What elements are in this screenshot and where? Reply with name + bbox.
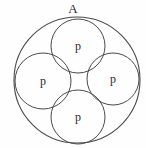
inner-circle-right-label: p (110, 72, 116, 86)
figure-canvas: A p p p p (0, 0, 146, 148)
geometry-figure: A p p p p (0, 0, 146, 148)
inner-circle-bottom-label: p (75, 110, 81, 124)
outer-circle-label-a: A (68, 1, 78, 16)
inner-circle-left-label: p (40, 74, 46, 88)
outer-circle-a (14, 17, 140, 143)
inner-circle-top-label: p (75, 39, 81, 53)
